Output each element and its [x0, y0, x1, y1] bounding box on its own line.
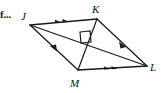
vertex-label-M: M — [70, 78, 79, 89]
vertex-label-J: J — [21, 11, 26, 22]
vertex-label-L: L — [150, 62, 156, 73]
side-KL — [97, 19, 147, 66]
vertex-label-K: K — [92, 4, 99, 15]
geometry-figure-container: f... J K L M — [0, 0, 161, 93]
diagonal-KM — [78, 19, 97, 70]
